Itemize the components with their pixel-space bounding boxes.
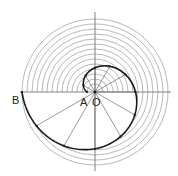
label-b: B [12,95,19,106]
spiral-mark [86,91,88,93]
spiral-mark [94,148,96,150]
label-o: O [92,97,101,108]
spiral-mark [109,65,111,67]
spiral-mark [84,75,86,77]
center-point [94,91,97,94]
spiral-mark [63,145,65,147]
spiral-mark [134,114,136,116]
spiral-mark [124,73,126,75]
spiral-mark [120,135,122,137]
label-a: A [80,97,87,108]
spiral-mark [94,67,96,69]
spiral-mark [35,125,37,127]
spiral-diagram [0,0,178,176]
spiral-mark [134,91,136,93]
spiral-mark [21,91,23,93]
spiral-mark [82,84,84,86]
radial-line [95,74,125,92]
